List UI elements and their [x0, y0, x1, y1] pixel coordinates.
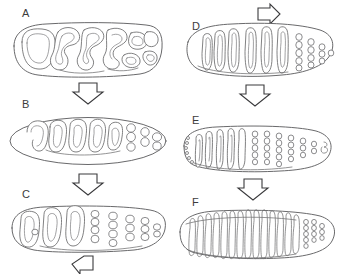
panel-d-bead [308, 55, 314, 62]
panel-b-bead [141, 138, 149, 147]
panel-c-bead [154, 231, 161, 237]
panel-b-bead [153, 142, 161, 150]
panel-d-bead [296, 58, 302, 65]
panel-d-bead [319, 58, 325, 64]
panel-f-label: F [192, 196, 199, 208]
panel-c-bead [91, 226, 99, 234]
panel-e-bead [276, 147, 282, 153]
panel-c-bead [141, 233, 149, 240]
panel-d-bead [319, 44, 325, 50]
panel-e-bead [288, 135, 294, 141]
panel-f-bead [304, 237, 309, 242]
panel-d-bead [308, 47, 314, 54]
panel-c-bead [91, 235, 99, 243]
panel-b-bead [152, 133, 161, 141]
panel-e-bead [264, 138, 270, 144]
panel-c-bead [109, 221, 117, 229]
panel-e-bead [288, 149, 294, 155]
panel-c-bead [153, 224, 160, 230]
panel-e-loop [205, 131, 212, 168]
panel-b-bead [141, 128, 149, 137]
panel-d-loop-inner [264, 32, 269, 67]
panel-d-cell [187, 23, 334, 76]
panel-d-loop-inner [280, 32, 285, 67]
panel-f-bead [320, 223, 325, 228]
panel-f-bead [312, 219, 317, 224]
panel-b-bead [127, 132, 136, 141]
panel-c-cell [12, 206, 165, 253]
panel-e-bead [252, 159, 257, 165]
panel-e-bead [288, 142, 294, 148]
panel-e-bead [276, 133, 282, 139]
panel-d-bead [296, 49, 302, 56]
panel-a-compartment-inner [27, 34, 49, 63]
panel-f-bead [304, 231, 309, 236]
panel-e-bead [311, 148, 316, 154]
panel-f-cell [180, 210, 335, 259]
panel-e-bead [264, 152, 270, 158]
panel-f-bead [304, 219, 309, 224]
panel-b-bead [127, 124, 136, 132]
panel-e-bead [300, 145, 306, 151]
panel-e-bead [264, 159, 269, 165]
panel-c-bead [109, 230, 117, 238]
panel-a-label: A [22, 7, 30, 19]
panel-f-bead [320, 229, 325, 234]
panel-d-loop-inner [248, 32, 253, 68]
panel-f-bead [304, 244, 308, 249]
panel-e-bead [276, 140, 282, 146]
panel-f-bead [312, 231, 317, 236]
panel-d-bead [319, 51, 325, 57]
panel-e-loop [195, 134, 202, 167]
panel-c-bead [32, 229, 38, 235]
panel-d-bead [328, 50, 334, 56]
panel-e-bead [288, 156, 293, 162]
panel-c-bead [91, 218, 99, 226]
panel-e-bead [311, 141, 316, 147]
panel-b-cell [10, 118, 166, 165]
panel-a-compartment-inner [132, 36, 143, 45]
panel-d-loop-inner [217, 35, 222, 66]
panel-b-bead [127, 143, 135, 151]
panel-c-bead [91, 210, 99, 217]
panel-d-bead [308, 62, 314, 68]
six-panel-diagram-canvas: A [0, 0, 340, 274]
panel-c-label: C [22, 188, 30, 200]
panel-f-bead [312, 238, 316, 243]
panel-c-bead [109, 212, 117, 220]
panel-e-bead [252, 138, 258, 144]
panel-f-bead [304, 225, 309, 230]
panel-e-loop [216, 130, 223, 170]
panel-f-bead [312, 225, 317, 230]
panel-d-loop-inner [205, 38, 210, 65]
panel-e-bead [276, 161, 281, 167]
panel-e-bead [300, 138, 306, 144]
panel-d-bead [296, 65, 302, 71]
panel-d-bead [296, 41, 302, 48]
panel-e-bead [264, 131, 270, 137]
panel-e-bead [264, 145, 270, 151]
panel-a-cell [14, 23, 162, 78]
panel-e-bead [252, 131, 258, 137]
panel-c-bead [141, 217, 149, 224]
panel-e-bead [252, 152, 258, 158]
panel-e-loop [238, 129, 245, 170]
panel-c-bead [126, 215, 134, 223]
panel-f-bead [320, 236, 324, 241]
panel-c-bead [141, 225, 149, 232]
panel-e-cell [184, 126, 331, 172]
panel-d-loop-inner [231, 33, 236, 67]
panel-e-bead [252, 145, 258, 151]
panel-a-compartment-inner [126, 57, 136, 64]
panel-c-bead [126, 233, 134, 241]
panel-c-bead [126, 224, 134, 232]
panel-e-label: E [192, 114, 200, 126]
panel-e-bead [300, 152, 305, 158]
panel-a-compartment [144, 32, 158, 47]
panel-d-bead [308, 39, 314, 46]
panel-d: D [187, 20, 334, 76]
panel-e-bead [276, 154, 282, 160]
panel-c-bead [109, 239, 117, 246]
panel-b-label: B [22, 98, 30, 110]
panel-d-bead [296, 34, 302, 41]
